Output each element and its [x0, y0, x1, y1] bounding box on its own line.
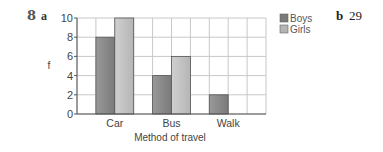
y-tick-label: 0	[67, 108, 73, 120]
x-categories: CarBusWalk	[106, 117, 240, 129]
y-ticks: 0246810	[61, 12, 77, 120]
y-tick-label: 2	[67, 89, 73, 101]
bar-girls-car	[115, 18, 134, 114]
y-tick-label: 4	[67, 70, 73, 82]
legend-label-boys: Boys	[290, 13, 312, 24]
x-tick-label: Car	[106, 117, 123, 129]
y-tick-label: 8	[67, 31, 73, 43]
bar-chart: 0246810 CarBusWalk f Method of travel Bo…	[0, 0, 383, 152]
legend-label-girls: Girls	[290, 24, 311, 35]
x-tick-label: Walk	[217, 117, 241, 129]
y-tick-label: 10	[61, 12, 73, 24]
legend: BoysGirls	[280, 13, 312, 35]
y-axis-label: f	[48, 60, 51, 71]
bar-boys-bus	[153, 76, 172, 114]
legend-swatch-boys	[280, 14, 288, 22]
bar-boys-car	[96, 37, 115, 114]
bar-boys-walk	[209, 95, 228, 114]
bars	[96, 18, 228, 114]
y-tick-label: 6	[67, 50, 73, 62]
x-tick-label: Bus	[162, 117, 180, 129]
x-axis-label: Method of travel	[134, 132, 206, 143]
bar-girls-bus	[172, 56, 191, 114]
legend-swatch-girls	[280, 25, 288, 33]
